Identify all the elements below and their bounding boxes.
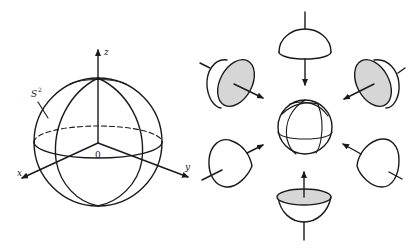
meridian-left (55, 78, 98, 206)
piece-lower-left (202, 140, 263, 187)
sphere-decomposition-figure: z x y 0 S 2 (0, 0, 420, 251)
upper-right-axis-stub (398, 68, 405, 73)
center-sphere (278, 100, 332, 154)
top-dome-rim (279, 52, 331, 59)
piece-top-dome (279, 12, 331, 85)
center-sphere-meridian-right (316, 104, 322, 153)
upper-right-disk (347, 53, 399, 112)
lower-left-axis-stub (202, 170, 222, 180)
upper-left-axis-stub (200, 63, 210, 68)
sphere-label-superscript: 2 (38, 86, 42, 93)
z-axis-label: z (103, 47, 109, 57)
lower-left-patch-outline (209, 140, 252, 187)
piece-upper-left (200, 53, 263, 112)
top-dome-outline (279, 29, 331, 52)
lower-left-arrow (247, 145, 263, 153)
center-sphere-top-arc (290, 102, 328, 116)
lower-right-patch-outline (357, 139, 399, 187)
lower-right-arrow (343, 144, 361, 154)
center-sphere-top-arc-2 (282, 103, 318, 114)
piece-upper-right (344, 53, 405, 112)
upper-left-disk (210, 53, 262, 112)
meridian-right (98, 78, 143, 206)
sphere-label: S (31, 89, 37, 99)
piece-lower-right (343, 139, 402, 187)
hemisphere-decomposition (200, 12, 405, 240)
x-axis-label: x (17, 168, 22, 178)
center-sphere-outline (278, 100, 332, 154)
y-axis-label: y (184, 162, 191, 172)
piece-bottom-bowl (277, 172, 331, 240)
sphere-s2-diagram: z x y 0 S 2 (17, 47, 191, 206)
origin-label: 0 (95, 150, 101, 160)
